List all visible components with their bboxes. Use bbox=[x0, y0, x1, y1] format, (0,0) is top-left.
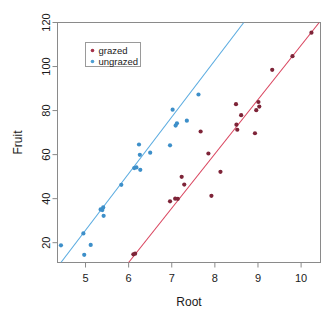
x-axis-tick-label: 5 bbox=[82, 272, 88, 284]
data-point-grazed bbox=[257, 105, 261, 109]
data-point-ungrazed bbox=[196, 92, 200, 96]
data-point-grazed bbox=[254, 108, 258, 112]
plot-canvas: 567891020406080100120RootFruitgrazedungr… bbox=[0, 0, 328, 316]
data-point-grazed bbox=[176, 197, 180, 201]
data-point-grazed bbox=[309, 31, 313, 35]
data-point-grazed bbox=[199, 129, 203, 133]
x-axis-tick-label: 9 bbox=[255, 272, 261, 284]
series-ungrazed bbox=[59, 92, 201, 256]
x-axis-title: Root bbox=[176, 295, 202, 309]
y-axis-tick-label: 40 bbox=[40, 193, 52, 205]
data-point-grazed bbox=[206, 151, 210, 155]
data-point-grazed bbox=[234, 123, 238, 127]
x-axis-tick-label: 10 bbox=[295, 272, 307, 284]
data-point-ungrazed bbox=[138, 168, 142, 172]
y-axis-tick-label: 80 bbox=[40, 104, 52, 116]
data-point-grazed bbox=[218, 170, 222, 174]
data-point-ungrazed bbox=[168, 143, 172, 147]
data-point-ungrazed bbox=[137, 142, 141, 146]
data-point-ungrazed bbox=[185, 119, 189, 123]
x-axis-tick-label: 6 bbox=[126, 272, 132, 284]
legend-marker-ungrazed bbox=[91, 60, 95, 64]
data-point-ungrazed bbox=[171, 108, 175, 112]
data-point-ungrazed bbox=[119, 183, 123, 187]
data-point-grazed bbox=[290, 54, 294, 58]
legend-label-ungrazed: ungrazed bbox=[99, 56, 139, 67]
data-point-grazed bbox=[133, 252, 137, 256]
scatter-plot-figure: 567891020406080100120RootFruitgrazedungr… bbox=[0, 0, 328, 316]
y-axis-tick-label: 120 bbox=[40, 13, 52, 31]
data-point-grazed bbox=[168, 199, 172, 203]
data-point-ungrazed bbox=[138, 153, 142, 157]
data-point-grazed bbox=[256, 100, 260, 104]
data-point-ungrazed bbox=[89, 243, 93, 247]
y-axis-tick-label: 100 bbox=[40, 57, 52, 75]
y-axis-title: Fruit bbox=[11, 130, 25, 155]
data-point-grazed bbox=[182, 182, 186, 186]
y-axis-tick-label: 20 bbox=[40, 237, 52, 249]
x-axis-tick-label: 7 bbox=[169, 272, 175, 284]
grazed-fit bbox=[129, 23, 320, 263]
data-point-grazed bbox=[270, 68, 274, 72]
data-point-ungrazed bbox=[175, 121, 179, 125]
data-point-grazed bbox=[235, 128, 239, 132]
data-point-ungrazed bbox=[82, 253, 86, 257]
data-point-ungrazed bbox=[59, 243, 63, 247]
data-point-ungrazed bbox=[81, 231, 85, 235]
legend-marker-grazed bbox=[91, 49, 95, 53]
data-point-ungrazed bbox=[101, 205, 105, 209]
data-point-grazed bbox=[234, 102, 238, 106]
data-point-grazed bbox=[180, 175, 184, 179]
data-point-grazed bbox=[253, 131, 257, 135]
data-point-grazed bbox=[239, 113, 243, 117]
y-axis-tick-label: 60 bbox=[40, 148, 52, 160]
data-point-grazed bbox=[209, 194, 213, 198]
data-point-ungrazed bbox=[134, 165, 138, 169]
x-axis-tick-label: 8 bbox=[212, 272, 218, 284]
data-point-ungrazed bbox=[102, 214, 106, 218]
data-point-ungrazed bbox=[148, 151, 152, 155]
legend-label-grazed: grazed bbox=[99, 45, 128, 56]
